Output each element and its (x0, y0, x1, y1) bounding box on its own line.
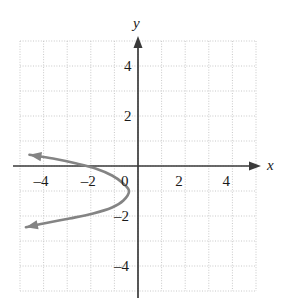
x-tick-label: –2 (81, 174, 96, 189)
y-tick-label: 4 (124, 59, 132, 74)
origin-label: 0 (121, 174, 129, 189)
x-axis-label: x (267, 158, 274, 173)
axes (13, 36, 261, 298)
graph-figure: x y –4–224042–2–4 (0, 0, 287, 308)
y-tick-label: –2 (114, 209, 129, 224)
x-tick-label: 4 (222, 174, 230, 189)
x-axis-arrow-icon (249, 162, 261, 171)
y-tick-label: –4 (114, 259, 129, 274)
y-tick-label: 2 (124, 109, 132, 124)
curve-arrow-upper-icon (29, 152, 42, 161)
y-axis-arrow-icon (134, 36, 143, 48)
x-tick-label: 2 (175, 174, 183, 189)
coordinate-plane-chart (0, 0, 287, 308)
x-tick-label: –4 (34, 174, 49, 189)
y-axis-label: y (133, 16, 140, 31)
